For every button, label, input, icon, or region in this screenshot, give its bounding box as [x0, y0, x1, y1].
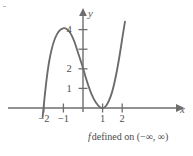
x-tick-label-minus2: −2: [36, 114, 52, 125]
x-axis-label: x: [180, 104, 185, 115]
y-tick-label-1: 1: [64, 84, 74, 95]
x-tick-label-2: 2: [117, 114, 127, 125]
x-tick-label-1: 1: [98, 114, 108, 125]
y-tick-label-4: 4: [64, 25, 74, 36]
y-axis-label: y: [88, 8, 93, 19]
caption-text: defined on (−∞, ∞): [92, 131, 169, 142]
function-curve: [43, 22, 125, 118]
y-axis-arrowhead: [79, 8, 87, 16]
y-tick-label-2: 2: [64, 64, 74, 75]
x-tick-label-minus1: −1: [56, 114, 72, 125]
figure-caption: fdefined on (−∞, ∞): [88, 131, 168, 143]
math-figure-cubic-graph: x y −2 −1 1 2 1 2 4 fdefined on (−∞, ∞): [0, 0, 193, 156]
